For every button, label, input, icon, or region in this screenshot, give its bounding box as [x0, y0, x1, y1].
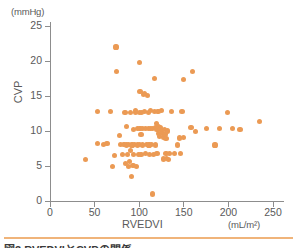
- y-tick-label: 5: [12, 159, 42, 171]
- scatter-point: [95, 141, 100, 146]
- scatter-point: [110, 164, 115, 169]
- scatter-point: [230, 126, 235, 131]
- y-tick-mark: [45, 61, 50, 62]
- scatter-point: [179, 109, 184, 114]
- scatter-point: [95, 109, 100, 114]
- scatter-point: [237, 127, 242, 132]
- y-tick-mark: [45, 26, 50, 27]
- y-tick-label: 20: [12, 54, 42, 66]
- scatter-point: [114, 69, 119, 74]
- scatter-point: [122, 110, 127, 115]
- scatter-point: [172, 151, 177, 156]
- x-tick-label: 0: [30, 206, 70, 218]
- scatter-point: [129, 174, 134, 179]
- scatter-point: [112, 153, 117, 158]
- scatter-point: [190, 69, 195, 74]
- scatter-point: [108, 109, 113, 114]
- x-tick-label: 50: [75, 206, 115, 218]
- scatter-point: [217, 126, 222, 131]
- scatter-point: [124, 124, 129, 129]
- scatter-point: [181, 135, 186, 140]
- scatter-point: [137, 60, 142, 65]
- figure-caption: 図3 RVEDVIとCVPの関係: [4, 241, 132, 248]
- scatter-point: [83, 157, 88, 162]
- y-tick-label: 0: [12, 194, 42, 206]
- scatter-point: [159, 108, 164, 113]
- scatter-point: [175, 142, 180, 147]
- scatter-point: [153, 142, 158, 147]
- caption-divider-rule: [4, 237, 293, 239]
- x-tick-label: 100: [119, 206, 159, 218]
- x-axis-unit-label: (mL/m²): [228, 219, 260, 230]
- y-tick-label: 15: [12, 89, 42, 101]
- x-axis-line: [50, 201, 284, 202]
- scatter-point: [178, 151, 183, 156]
- scatter-plot-figure: (mmHg) CVP RVEDVI (mL/m²) 05101520250501…: [0, 0, 297, 248]
- scatter-point: [117, 133, 122, 138]
- scatter-point: [163, 136, 168, 141]
- scatter-point: [165, 128, 170, 133]
- scatter-point: [134, 164, 139, 169]
- scatter-point: [166, 157, 171, 162]
- scatter-point: [138, 132, 143, 137]
- x-tick-label: 200: [208, 206, 248, 218]
- x-tick-label: 150: [164, 206, 204, 218]
- x-tick-label: 250: [253, 206, 293, 218]
- y-tick-mark: [45, 96, 50, 97]
- scatter-point: [169, 109, 174, 114]
- x-axis-title: RVEDVI: [122, 218, 163, 230]
- scatter-point: [212, 142, 217, 147]
- scatter-point: [113, 44, 118, 49]
- y-tick-mark: [45, 166, 50, 167]
- scatter-point: [154, 151, 159, 156]
- y-tick-label: 10: [12, 124, 42, 136]
- y-tick-mark: [45, 131, 50, 132]
- y-tick-label: 25: [12, 19, 42, 31]
- scatter-point: [145, 93, 150, 98]
- y-axis-line: [50, 22, 51, 202]
- scatter-point: [225, 110, 230, 115]
- scatter-point: [152, 76, 157, 81]
- scatter-point: [104, 141, 109, 146]
- scatter-point: [193, 129, 198, 134]
- y-axis-unit-label: (mmHg): [11, 6, 44, 17]
- scatter-point: [257, 119, 262, 124]
- scatter-point: [181, 77, 186, 82]
- scatter-point: [150, 191, 155, 196]
- scatter-point: [204, 126, 209, 131]
